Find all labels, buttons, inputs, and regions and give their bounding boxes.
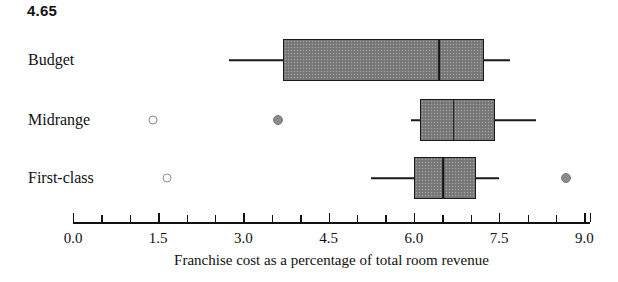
x-tick-minor-2 — [187, 215, 188, 222]
x-tick-major-2 — [243, 213, 244, 222]
x-axis-cap-left — [73, 213, 74, 222]
x-tick-label-0: 0.0 — [64, 230, 83, 247]
x-axis-title: Franchise cost as a percentage of total … — [174, 252, 489, 269]
box-plot-figure: 4.65 BudgetMidrangeFirst-class 0.01.53.0… — [0, 0, 618, 282]
x-tick-minor-3 — [215, 215, 216, 222]
x-tick-minor-9 — [471, 215, 472, 222]
x-tick-minor-11 — [556, 215, 557, 222]
x-tick-major-3 — [329, 213, 330, 222]
box-midrange — [420, 99, 496, 141]
x-tick-minor-5 — [300, 215, 301, 222]
category-label-first-class: First-class — [28, 169, 94, 187]
x-tick-label-5: 7.5 — [490, 230, 509, 247]
box-first-class — [414, 157, 476, 199]
x-tick-minor-7 — [385, 215, 386, 222]
x-axis-cap-right — [590, 213, 591, 222]
figure-number-label: 4.65 — [27, 2, 57, 19]
whisker-high-first-class — [474, 177, 500, 179]
category-label-midrange: Midrange — [28, 111, 90, 129]
box-budget — [283, 39, 484, 81]
x-tick-minor-6 — [357, 215, 358, 222]
x-tick-major-5 — [499, 213, 500, 222]
median-line-budget — [439, 40, 441, 80]
whisker-low-first-class — [371, 177, 414, 179]
median-line-first-class — [443, 158, 445, 198]
whisker-low-midrange — [411, 119, 420, 121]
x-tick-label-4: 6.0 — [405, 230, 424, 247]
x-tick-label-2: 3.0 — [234, 230, 253, 247]
x-tick-major-6 — [584, 213, 585, 222]
x-tick-label-1: 1.5 — [149, 230, 168, 247]
x-tick-major-1 — [158, 213, 159, 222]
x-tick-minor-4 — [272, 215, 273, 222]
x-axis-line — [73, 222, 590, 224]
median-line-midrange — [453, 100, 455, 140]
x-tick-minor-8 — [442, 215, 443, 222]
x-tick-minor-1 — [130, 215, 131, 222]
outlier-open-midrange-0 — [148, 116, 157, 125]
x-tick-minor-10 — [528, 215, 529, 222]
category-label-budget: Budget — [28, 51, 74, 69]
x-tick-major-4 — [414, 213, 415, 222]
whisker-high-midrange — [493, 119, 536, 121]
outlier-filled-midrange-0 — [273, 115, 283, 125]
outlier-filled-first-class-0 — [561, 173, 571, 183]
whisker-low-budget — [229, 59, 283, 61]
outlier-open-first-class-0 — [162, 174, 171, 183]
x-tick-label-6: 9.0 — [575, 230, 594, 247]
x-tick-label-3: 4.5 — [319, 230, 338, 247]
x-tick-minor-0 — [101, 215, 102, 222]
whisker-high-budget — [482, 59, 510, 61]
